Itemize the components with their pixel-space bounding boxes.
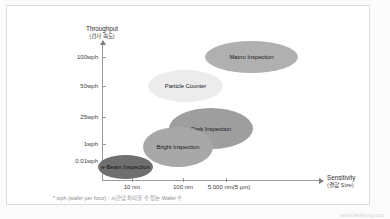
bubble-ebeam-inspection[interactable]: e-Beam Inspection xyxy=(98,155,153,179)
chart-frame: Throughput (검사 속도) Sensitivity (결함 Size)… xyxy=(6,5,370,205)
bubble-label-bright-inspection: Bright Inspection xyxy=(157,144,200,150)
y-tick-label-0: 100wph xyxy=(77,54,98,61)
y-axis-title-sub: (검사 속도) xyxy=(86,33,118,41)
y-axis-title: Throughput (검사 속도) xyxy=(86,25,118,40)
x-tick-label-0: 10 nm xyxy=(124,184,141,190)
y-tick-label-3: 1wph xyxy=(84,141,98,148)
bubble-particle-counter[interactable]: Particle Counter xyxy=(148,70,223,102)
watermark-text: news.hankyung.com xyxy=(340,213,384,218)
bubble-macro-inspection[interactable]: Macro Inspection xyxy=(205,41,298,73)
y-axis-title-main: Throughput xyxy=(86,25,118,32)
y-tick-3 xyxy=(102,144,106,145)
x-tick-label-1: 100 nm xyxy=(173,184,193,190)
x-tick-label-2: 5,000 nm(5 µm) xyxy=(208,184,250,190)
bubble-label-particle-counter: Particle Counter xyxy=(165,83,206,89)
y-tick-label-4: 0.01wph xyxy=(75,158,98,165)
y-axis-arrow-icon xyxy=(100,40,106,45)
y-tick-2 xyxy=(102,117,106,118)
y-tick-label-1: 50wph xyxy=(80,83,98,90)
bubble-label-macro-inspection: Macro Inspection xyxy=(229,54,273,60)
chart-footnote: * wph (wafer per hour) : 시간당 처리할 수 있는 Wa… xyxy=(53,194,183,202)
x-tick-2 xyxy=(226,178,227,182)
x-axis-title: Sensitivity (결함 Size) xyxy=(327,174,355,189)
x-axis-title-main: Sensitivity xyxy=(327,174,355,181)
x-tick-1 xyxy=(183,178,184,182)
bubble-bright-inspection[interactable]: Bright Inspection xyxy=(143,127,213,167)
bubble-label-ebeam-inspection: e-Beam Inspection xyxy=(101,164,149,170)
x-axis-line xyxy=(102,180,320,181)
y-tick-0 xyxy=(102,57,106,58)
y-tick-label-2: 25wph xyxy=(80,114,98,121)
y-tick-1 xyxy=(102,86,106,87)
chart-canvas: Throughput (검사 속도) Sensitivity (결함 Size)… xyxy=(0,0,390,219)
x-axis-title-sub: (결함 Size) xyxy=(327,182,355,190)
x-axis-arrow-icon xyxy=(319,178,324,184)
